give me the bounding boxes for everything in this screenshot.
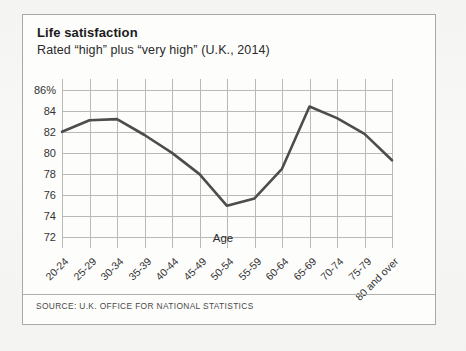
y-tick-label: 76: [44, 189, 56, 201]
source-divider: [23, 294, 435, 295]
y-tick-label: 78: [44, 168, 56, 180]
x-axis-title-text: Age: [213, 232, 233, 244]
y-tick-label: 82: [44, 126, 56, 138]
y-tick-label: 74: [44, 210, 56, 222]
chart-subtitle: Rated “high” plus “very high” (U.K., 201…: [37, 43, 270, 57]
x-axis-title: Age: [23, 232, 435, 244]
y-tick-label: 84: [44, 105, 56, 117]
source-note: SOURCE: U.K. OFFICE FOR NATIONAL STATIST…: [36, 301, 254, 311]
y-axis-labels: 86%84828078767472: [23, 79, 62, 248]
y-tick-label: 86%: [34, 84, 56, 96]
y-tick-label: 80: [44, 147, 56, 159]
gridline-x-80 and over: [392, 79, 393, 248]
line-series: [62, 79, 392, 248]
series-line: [62, 107, 392, 206]
plot-area: [62, 79, 392, 248]
chart-title: Life satisfaction: [37, 25, 138, 40]
chart-card: Life satisfaction Rated “high” plus “ver…: [22, 14, 436, 325]
